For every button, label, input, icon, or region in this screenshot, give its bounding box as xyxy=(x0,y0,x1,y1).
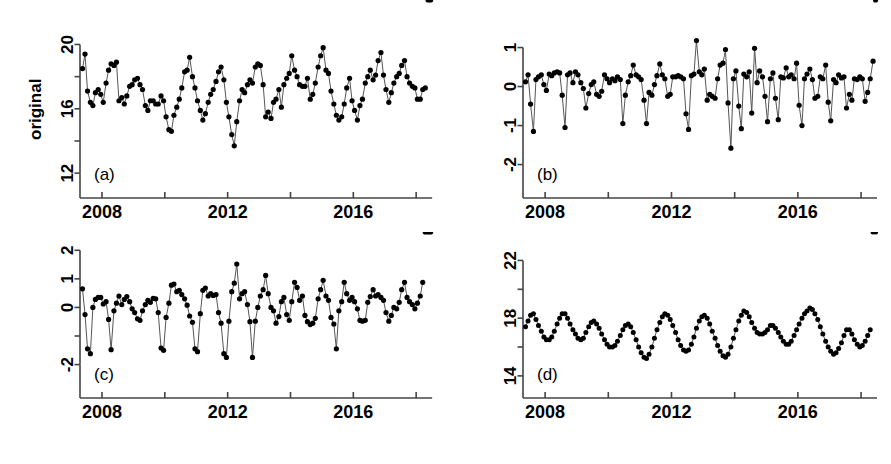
data-point xyxy=(124,294,129,299)
data-point xyxy=(347,76,352,81)
data-point xyxy=(597,94,602,99)
data-point xyxy=(697,319,702,324)
data-point xyxy=(810,307,815,312)
data-point xyxy=(328,315,333,320)
data-point xyxy=(187,313,192,318)
data-point xyxy=(820,76,825,81)
data-point xyxy=(344,291,349,296)
data-point xyxy=(103,299,108,304)
data-point xyxy=(82,52,87,57)
data-point xyxy=(85,346,90,351)
x-axis-tick-label: 2008 xyxy=(82,402,122,422)
data-point xyxy=(245,82,250,87)
data-point xyxy=(339,114,344,119)
data-point xyxy=(863,339,868,344)
data-point xyxy=(334,346,339,351)
data-point xyxy=(216,69,221,74)
data-point xyxy=(326,298,331,303)
data-point xyxy=(847,327,852,332)
data-point xyxy=(232,143,237,148)
data-point xyxy=(739,313,744,318)
data-point xyxy=(523,79,528,84)
data-point xyxy=(807,66,812,71)
data-point xyxy=(195,98,200,103)
data-point xyxy=(153,296,158,301)
data-point xyxy=(844,105,849,110)
data-point xyxy=(106,317,111,322)
data-point xyxy=(662,76,667,81)
panel-tag-label: (b) xyxy=(537,165,558,184)
data-point xyxy=(639,350,644,355)
data-point xyxy=(171,113,176,118)
data-point xyxy=(718,349,723,354)
data-point xyxy=(770,70,775,75)
data-point xyxy=(657,61,662,66)
data-point xyxy=(778,334,783,339)
data-point xyxy=(765,327,770,332)
data-point xyxy=(124,93,129,98)
data-point xyxy=(111,308,116,313)
data-point xyxy=(268,116,273,121)
data-point xyxy=(649,345,654,350)
data-point xyxy=(641,98,646,103)
data-point xyxy=(644,121,649,126)
data-point xyxy=(365,300,370,305)
data-point xyxy=(575,72,580,77)
data-point xyxy=(644,356,649,361)
data-point xyxy=(242,289,247,294)
data-point xyxy=(752,326,757,331)
data-point xyxy=(363,80,368,85)
series-line xyxy=(526,41,874,149)
data-point xyxy=(631,63,636,68)
data-point xyxy=(90,103,95,108)
data-point xyxy=(213,292,218,297)
data-point xyxy=(776,117,781,122)
y-axis-tick-label: 0 xyxy=(502,82,521,91)
data-point xyxy=(733,68,738,73)
data-point xyxy=(762,94,767,99)
data-point xyxy=(728,146,733,151)
data-point xyxy=(828,118,833,123)
data-point xyxy=(302,313,307,318)
data-point xyxy=(253,319,258,324)
data-point xyxy=(583,105,588,110)
data-point xyxy=(868,76,873,81)
data-point xyxy=(744,310,749,315)
data-point xyxy=(179,85,184,90)
data-point xyxy=(683,111,688,116)
data-point xyxy=(352,299,357,304)
data-point xyxy=(794,61,799,66)
data-point xyxy=(826,345,831,350)
data-point xyxy=(378,50,383,55)
data-point xyxy=(96,87,101,92)
y-axis-tick-label: 22 xyxy=(502,251,521,270)
data-point xyxy=(549,334,554,339)
data-point xyxy=(331,101,336,106)
data-point xyxy=(101,100,106,105)
data-point xyxy=(109,347,114,352)
data-point xyxy=(357,103,362,108)
data-point xyxy=(841,74,846,79)
data-point xyxy=(599,332,604,337)
data-point xyxy=(237,296,242,301)
data-point xyxy=(612,343,617,348)
data-point xyxy=(258,63,263,68)
data-point xyxy=(823,339,828,344)
data-point xyxy=(355,306,360,311)
data-point xyxy=(402,280,407,285)
data-point xyxy=(271,308,276,313)
data-point xyxy=(287,318,292,323)
data-point xyxy=(206,100,211,105)
data-point xyxy=(618,333,623,338)
data-point xyxy=(628,73,633,78)
data-point xyxy=(276,87,281,92)
data-point xyxy=(266,291,271,296)
data-point xyxy=(583,330,588,335)
data-point xyxy=(707,321,712,326)
data-point xyxy=(279,105,284,110)
data-point xyxy=(132,310,137,315)
data-point xyxy=(694,38,699,43)
y-axis-tick-label: -2 xyxy=(59,357,78,372)
data-point xyxy=(247,319,252,324)
data-point xyxy=(562,125,567,130)
